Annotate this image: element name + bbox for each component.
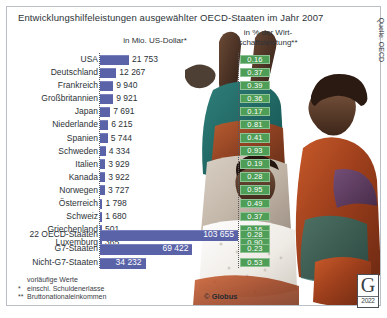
country-label: Deutschland <box>51 67 98 77</box>
table-row: Österreich1 7980.49 <box>0 197 387 210</box>
column-header-money: in Mio. US-Dollar* <box>100 36 210 45</box>
infographic-root: Entwicklungshilfeleistungen ausgewählter… <box>0 0 387 318</box>
country-label: USA <box>81 54 98 64</box>
aggregate-label: 22 OECD-Staaten <box>29 229 98 239</box>
table-row: Deutschland12 2670.37 <box>0 66 387 79</box>
country-percent-badge: 0.37 <box>240 68 270 78</box>
country-percent-badge: 0.37 <box>240 212 270 222</box>
country-bar <box>100 199 102 209</box>
table-row: Niederlande6 2150.81 <box>0 118 387 131</box>
country-label: Italien <box>75 159 98 169</box>
country-value: 3 922 <box>108 172 129 182</box>
country-label: Spanien <box>67 133 98 143</box>
aggregate-value: 69 422 <box>162 243 188 253</box>
country-bar <box>100 159 105 169</box>
country-bar <box>100 146 106 156</box>
country-label: Japan <box>75 106 98 116</box>
country-label: Niederlande <box>52 119 98 129</box>
country-percent-badge: 0.41 <box>240 133 270 143</box>
country-percent-badge: 0.95 <box>240 185 270 195</box>
globus-logo-year: 2022 <box>358 296 378 305</box>
footnotes: vorläufige Werte*einschl. Schuldenerlass… <box>18 276 106 302</box>
country-percent-badge: 0.49 <box>240 199 270 209</box>
country-bar <box>100 107 110 117</box>
country-value: 7 691 <box>113 106 134 116</box>
country-value: 5 744 <box>111 133 132 143</box>
country-value: 9 940 <box>116 80 137 90</box>
copyright-name: Globus <box>212 292 238 301</box>
globus-logo-letter: G <box>358 275 378 296</box>
country-value: 12 267 <box>119 67 145 77</box>
country-bar <box>100 55 129 65</box>
country-value: 9 921 <box>116 93 137 103</box>
country-percent-badge: 0.28 <box>240 172 270 182</box>
column-header-percent-line2: schaftsleistung** <box>238 38 297 47</box>
aggregate-percent-badge: 0.53 <box>240 258 270 268</box>
country-label: Kanada <box>69 172 98 182</box>
country-percent-badge: 0.17 <box>240 107 270 117</box>
source-label: Quelle: OECD <box>378 18 385 62</box>
country-percent-badge: 0.81 <box>240 120 270 130</box>
footnote: **Bruttonationaleinkommen <box>18 293 106 302</box>
country-rows: USA21 7530.16Deutschland12 2670.37Frankr… <box>0 53 387 249</box>
page-title: Entwicklungshilfeleistungen ausgewählter… <box>18 12 323 23</box>
aggregate-rows: 22 OECD-Staaten103 6550.28G7-Staaten69 4… <box>0 228 387 270</box>
copyright: © Globus <box>204 292 237 301</box>
country-bar <box>100 120 108 130</box>
aggregate-row: G7-Staaten69 4220.23 <box>0 242 387 256</box>
table-row: USA21 7530.16 <box>0 53 387 66</box>
country-percent-badge: 0.19 <box>240 159 270 169</box>
footnote: *einschl. Schuldenerlasse <box>18 285 106 294</box>
aggregate-value: 103 655 <box>203 229 234 239</box>
table-row: Norwegen3 7270.95 <box>0 184 387 197</box>
country-bar <box>100 68 116 78</box>
country-value: 21 753 <box>132 54 158 64</box>
aggregate-value: 34 232 <box>116 257 142 267</box>
globus-logo: G 2022 <box>357 274 379 308</box>
country-label: Norwegen <box>59 185 98 195</box>
table-row: Spanien5 7440.41 <box>0 132 387 145</box>
footnote-text: einschl. Schuldenerlasse <box>27 285 104 292</box>
country-label: Schweden <box>58 146 98 156</box>
country-bar <box>100 94 113 104</box>
country-value: 3 929 <box>108 159 129 169</box>
country-bar <box>100 81 113 91</box>
country-value: 3 727 <box>108 185 129 195</box>
aggregate-row: 22 OECD-Staaten103 6550.28 <box>0 228 387 242</box>
country-percent-badge: 0.16 <box>240 55 270 65</box>
footnote-text: vorläufige Werte <box>27 276 78 283</box>
footnote-text: Bruttonationaleinkommen <box>27 293 106 300</box>
footnote: vorläufige Werte <box>18 276 106 285</box>
copyright-symbol: © <box>204 292 210 301</box>
aggregate-label: Nicht-G7-Staaten <box>32 257 98 267</box>
footnote-marker: * <box>18 285 27 294</box>
footnote-marker: ** <box>18 293 27 302</box>
country-bar <box>100 212 102 222</box>
aggregate-percent-badge: 0.23 <box>240 244 270 254</box>
country-value: 6 215 <box>111 119 132 129</box>
aggregate-percent-badge: 0.28 <box>240 230 270 240</box>
country-label: Großbritannien <box>41 93 98 103</box>
country-bar <box>100 133 108 143</box>
country-percent-badge: 0.93 <box>240 146 270 156</box>
country-percent-badge: 0.36 <box>240 94 270 104</box>
table-row: Frankreich9 9400.39 <box>0 79 387 92</box>
aggregate-label: G7-Staaten <box>55 243 98 253</box>
country-bar <box>100 172 105 182</box>
table-row: Großbritannien9 9210.36 <box>0 92 387 105</box>
table-row: Kanada3 9220.28 <box>0 171 387 184</box>
column-header-percent-line1: in % der Wirt- <box>244 28 292 37</box>
country-value: 4 334 <box>109 146 130 156</box>
aggregate-row: Nicht-G7-Staaten34 2320.53 <box>0 256 387 270</box>
table-row: Schweden4 3340.93 <box>0 145 387 158</box>
country-value: 1 798 <box>105 198 126 208</box>
table-row: Schweiz1 6800.37 <box>0 210 387 223</box>
column-header-percent: in % der Wirt- schaftsleistung** <box>222 28 314 47</box>
country-value: 1 680 <box>105 211 126 221</box>
country-bar <box>100 185 105 195</box>
bottom-strip <box>0 312 387 318</box>
country-label: Frankreich <box>58 80 98 90</box>
country-label: Schweiz <box>66 211 98 221</box>
table-row: Japan7 6910.17 <box>0 105 387 118</box>
country-percent-badge: 0.39 <box>240 81 270 91</box>
